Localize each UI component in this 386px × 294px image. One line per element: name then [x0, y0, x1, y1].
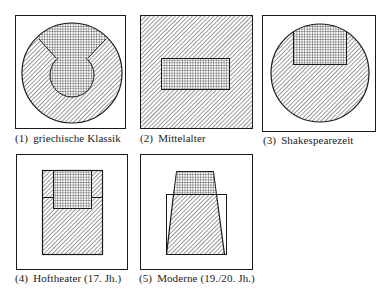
panel-5-number: (5) — [139, 272, 152, 284]
panel-2-caption: (2)Mittelalter — [140, 132, 206, 144]
panel-5-modern — [141, 155, 253, 270]
panel-4-caption: (4)Hoftheater (17. Jh.) — [15, 272, 121, 284]
panel-1-greek-classic — [16, 16, 126, 129]
panel-2-label: Mittelalter — [158, 132, 206, 144]
panel-2-middle-ages — [141, 16, 253, 129]
panel-4-label: Hoftheater (17. Jh.) — [33, 272, 121, 284]
stage-rect-checkered — [162, 59, 230, 90]
theatre-forms-diagram — [0, 0, 386, 294]
panel-1-label: griechische Klassik — [33, 132, 121, 144]
panel-3-number: (3) — [263, 134, 276, 146]
panel-3-shakespeare — [263, 16, 376, 132]
panel-1-caption: (1)griechische Klassik — [15, 132, 121, 144]
panel-4-number: (4) — [15, 272, 28, 284]
panel-3-label: Shakespearezeit — [281, 134, 353, 146]
panel-2-number: (2) — [140, 132, 153, 144]
orchestra-circle — [50, 53, 94, 97]
stage-rect-checkered — [294, 20, 347, 65]
panel-4-court-theatre — [17, 155, 128, 270]
panel-5-caption: (5)Moderne (19./20. Jh.) — [139, 272, 255, 284]
auditorium-trapezoid-hatched — [167, 195, 225, 255]
stage-rect-checkered — [54, 171, 92, 209]
stage-trapezoid-checkered — [174, 172, 217, 195]
panel-1-number: (1) — [15, 132, 28, 144]
panel-3-caption: (3)Shakespearezeit — [263, 134, 354, 146]
panel-5-label: Moderne (19./20. Jh.) — [157, 272, 255, 284]
